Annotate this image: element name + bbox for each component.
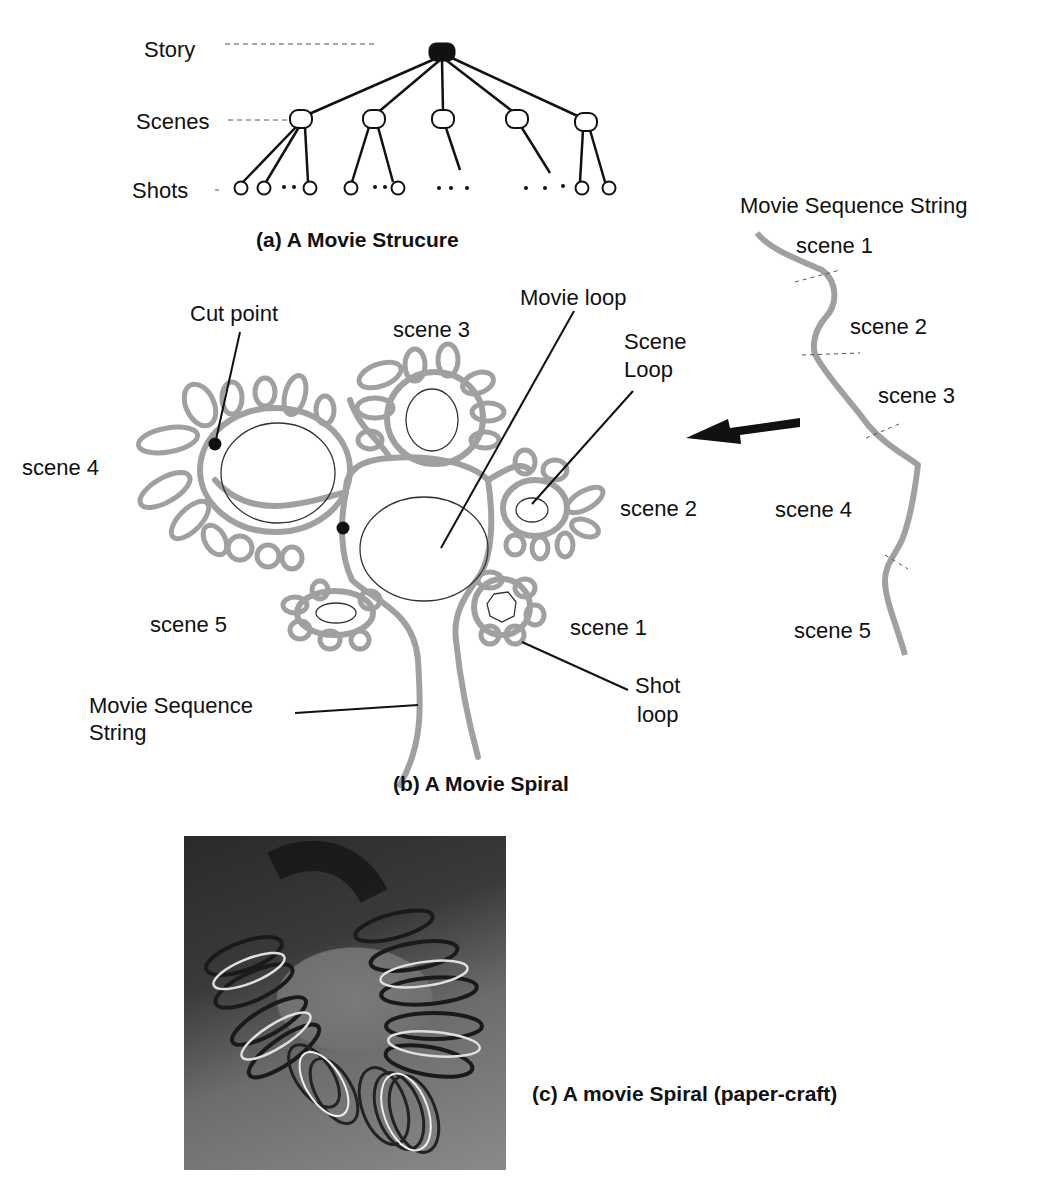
seq-string-label-2: String [89, 721, 146, 745]
shot-nodes [235, 182, 616, 195]
caption-b: (b) A Movie Spiral [393, 772, 569, 796]
scene-3-label: scene 3 [393, 318, 470, 342]
movie-structure-tree [215, 43, 616, 195]
caption-c: (c) A movie Spiral (paper-craft) [532, 1082, 837, 1106]
arrow-left-icon [686, 418, 800, 444]
scene-2-label: scene 2 [620, 497, 697, 521]
scene-nodes [290, 110, 597, 131]
scene-loop-label-1: Scene [624, 330, 686, 354]
sequence-string-drawing [757, 233, 918, 655]
seq-scene-3: scene 3 [878, 384, 955, 408]
sequence-string-title: Movie Sequence String [740, 194, 967, 218]
seq-string-label-1: Movie Sequence [89, 694, 253, 718]
ellipsis-dots [282, 184, 565, 190]
cut-point-label: Cut point [190, 302, 278, 326]
paper-craft-spiral-rings [184, 836, 506, 1170]
scene-5-label: scene 5 [150, 613, 227, 637]
story-node [429, 43, 455, 61]
scene-1-label: scene 1 [570, 616, 647, 640]
movie-loop-ellipse [360, 497, 488, 601]
caption-a: (a) A Movie Strucure [256, 228, 459, 252]
level-label-story: Story [144, 38, 195, 62]
cut-point-dot-2 [337, 522, 350, 535]
scene-loop-label-2: Loop [624, 358, 673, 382]
shot-loop-label-1: Shot [635, 674, 680, 698]
seq-scene-2: scene 2 [850, 315, 927, 339]
paper-craft-photo [184, 836, 506, 1170]
movie-spiral [135, 344, 607, 785]
shot-loop-label-2: loop [637, 703, 679, 727]
level-label-scenes: Scenes [136, 110, 209, 134]
seq-scene-4: scene 4 [775, 498, 852, 522]
scene-4-label: scene 4 [22, 456, 99, 480]
seq-scene-1: scene 1 [796, 234, 873, 258]
seq-scene-5: scene 5 [794, 619, 871, 643]
level-label-shots: Shots [132, 179, 188, 203]
movie-loop-label: Movie loop [520, 286, 626, 310]
